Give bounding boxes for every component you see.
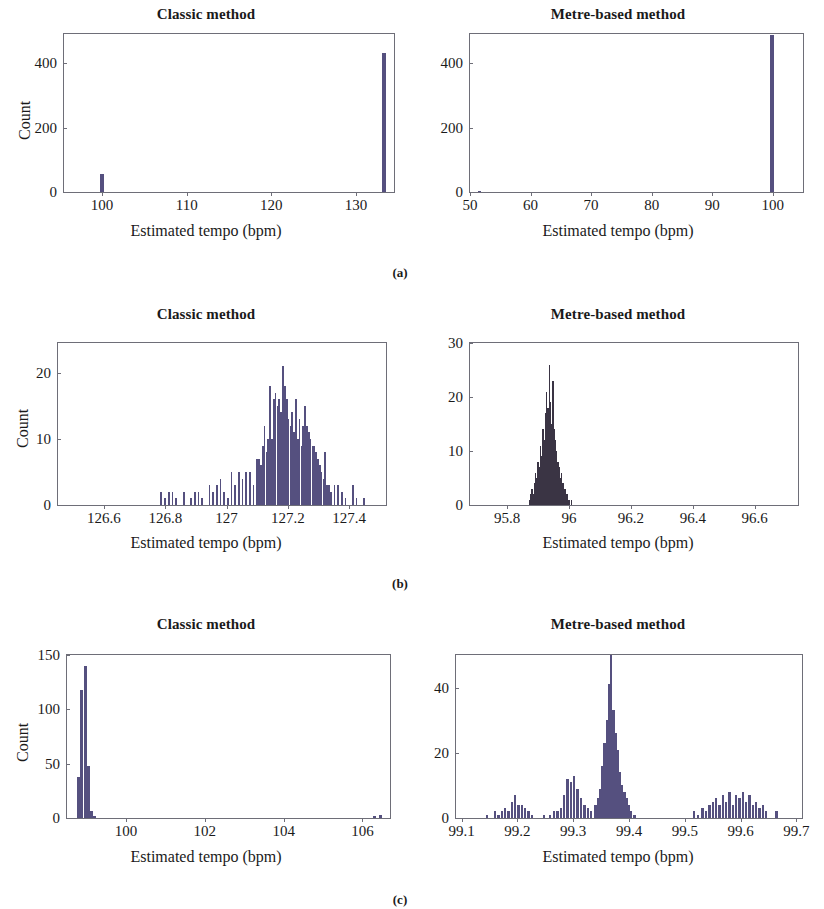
histogram-bar <box>563 795 565 818</box>
x-axis-label: Estimated tempo (bpm) <box>0 222 412 240</box>
y-tick-label: 400 <box>441 55 464 72</box>
histogram-bar <box>630 811 632 818</box>
x-tick-label: 100 <box>91 197 114 214</box>
histogram-bar <box>194 492 196 505</box>
histogram-bar <box>715 798 717 818</box>
histogram-bar <box>587 808 589 818</box>
y-tick-mark <box>455 688 459 689</box>
histogram-bar <box>770 35 773 192</box>
x-tick-label: 50 <box>463 197 478 214</box>
x-tick-label: 106 <box>351 823 374 840</box>
histogram-bar <box>583 805 585 818</box>
histogram-bar <box>486 815 488 818</box>
histogram-bar <box>382 53 386 192</box>
y-tick-label: 400 <box>35 55 58 72</box>
subfigure-b: Classic method 126.6126.8127127.2127.401… <box>0 300 824 610</box>
histogram-bar <box>352 485 354 505</box>
x-tick-mark <box>569 505 570 509</box>
histogram-bar <box>735 795 737 818</box>
x-tick-mark <box>205 818 206 822</box>
histogram-bar <box>553 811 555 818</box>
histogram-bar <box>549 815 551 818</box>
x-axis-label: Estimated tempo (bpm) <box>412 222 824 240</box>
plot-area <box>63 33 395 193</box>
x-tick-label: 110 <box>176 197 198 214</box>
histogram-bar <box>227 498 229 505</box>
histogram-bar <box>220 479 222 505</box>
x-tick-mark <box>165 505 166 509</box>
x-tick-mark <box>796 818 797 822</box>
y-tick-mark <box>66 655 70 656</box>
x-tick-label: 102 <box>194 823 217 840</box>
histogram-bar <box>494 811 496 818</box>
panel-title: Classic method <box>0 6 412 23</box>
x-tick-mark <box>755 505 756 509</box>
y-tick-label: 200 <box>441 119 464 136</box>
histogram-bars <box>456 655 802 818</box>
histogram-bar <box>168 492 170 505</box>
y-tick-mark <box>57 439 61 440</box>
y-tick-mark <box>57 505 61 506</box>
x-tick-label: 127 <box>215 510 238 527</box>
panel-title: Metre-based method <box>412 306 824 323</box>
y-tick-label: 10 <box>448 443 463 460</box>
histogram-bar <box>511 802 513 818</box>
histogram-bar <box>341 492 343 505</box>
x-tick-mark <box>591 192 592 196</box>
x-tick-label: 96.6 <box>742 510 768 527</box>
x-tick-mark <box>507 505 508 509</box>
x-tick-mark <box>531 192 532 196</box>
plot-area <box>455 654 803 819</box>
y-tick-mark <box>57 373 61 374</box>
x-tick-label: 104 <box>272 823 295 840</box>
histogram-bar <box>497 815 499 818</box>
x-tick-mark <box>362 818 363 822</box>
subfigure-a: Classic method 1001101201300200400 Estim… <box>0 0 824 300</box>
histogram-bar <box>234 485 236 505</box>
x-tick-label: 100 <box>761 197 784 214</box>
histogram-bar <box>745 802 747 818</box>
histogram-bar <box>242 479 244 505</box>
histogram-bar <box>543 815 545 818</box>
x-tick-mark <box>693 505 694 509</box>
x-tick-mark <box>102 192 103 196</box>
x-tick-label: 127.2 <box>271 510 305 527</box>
x-tick-label: 96 <box>562 510 577 527</box>
y-tick-mark <box>66 764 70 765</box>
x-tick-label: 95.8 <box>494 510 520 527</box>
histogram-bar <box>755 802 757 818</box>
subfigure-c: Classic method 100102104106050100150 Est… <box>0 610 824 909</box>
y-tick-label: 200 <box>35 119 58 136</box>
histogram-bar <box>223 492 225 505</box>
histogram-bar <box>373 816 376 818</box>
x-tick-mark <box>773 192 774 196</box>
histogram-bar <box>758 808 760 818</box>
histogram-bars <box>58 343 386 505</box>
x-axis-label: Estimated tempo (bpm) <box>412 848 824 866</box>
x-tick-mark <box>629 818 630 822</box>
x-tick-mark <box>227 505 228 509</box>
histogram-bar <box>732 805 734 818</box>
x-tick-label: 99.5 <box>672 823 698 840</box>
x-axis-label: Estimated tempo (bpm) <box>0 848 412 866</box>
panel-title: Metre-based method <box>412 6 824 23</box>
x-tick-label: 120 <box>260 197 283 214</box>
x-tick-label: 96.4 <box>680 510 706 527</box>
y-tick-mark <box>469 397 473 398</box>
histogram-bar <box>504 808 506 818</box>
y-tick-label: 0 <box>456 497 464 514</box>
panel-title: Metre-based method <box>412 616 824 633</box>
histogram-bar <box>337 485 339 505</box>
histogram-bar <box>100 174 104 192</box>
histogram-bar <box>722 795 724 818</box>
x-tick-mark <box>462 818 463 822</box>
x-tick-mark <box>652 192 653 196</box>
histogram-bar <box>566 779 568 818</box>
y-tick-label: 0 <box>442 810 450 827</box>
histogram-bar <box>718 805 720 818</box>
x-tick-mark <box>104 505 105 509</box>
histogram-bar <box>762 805 764 818</box>
y-tick-mark <box>455 753 459 754</box>
x-tick-mark <box>631 505 632 509</box>
histogram-bar <box>742 792 744 818</box>
